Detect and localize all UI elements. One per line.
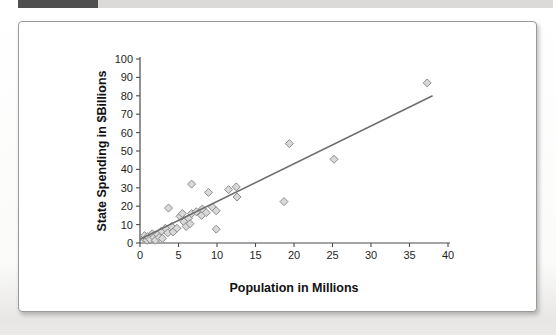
data-point [233,193,241,201]
y-tick-label: 20 [121,200,133,212]
y-tick-label: 100 [115,53,133,65]
y-tick-label: 10 [121,219,133,231]
chart-panel: 05101520253035400102030405060708090100Po… [18,21,537,312]
y-tick-label: 30 [121,182,133,194]
x-tick-label: 5 [175,249,181,261]
trend-line [140,96,433,240]
y-axis-title: State Spending in $Billions [95,70,109,231]
x-tick-label: 20 [288,249,300,261]
data-point [205,188,213,196]
data-point [280,198,288,206]
x-tick-label: 0 [137,249,143,261]
x-tick-label: 35 [403,249,415,261]
data-point [225,186,233,194]
y-tick-label: 40 [121,163,133,175]
y-tick-label: 90 [121,71,133,83]
data-point [423,79,431,87]
y-tick-label: 50 [121,145,133,157]
page: 05101520253035400102030405060708090100Po… [0,0,556,335]
x-tick-label: 10 [211,249,223,261]
x-tick-label: 25 [326,249,338,261]
x-axis-title: Population in Millions [229,281,358,295]
y-tick-label: 0 [127,237,133,249]
x-tick-label: 30 [365,249,377,261]
header-strip [0,0,556,8]
data-point [285,140,293,148]
x-tick-label: 40 [442,249,454,261]
data-point [212,225,220,233]
scatter-chart: 05101520253035400102030405060708090100Po… [19,22,536,311]
y-tick-label: 80 [121,90,133,102]
header-accent-bar [18,0,98,8]
x-tick-label: 15 [249,249,261,261]
y-tick-label: 60 [121,127,133,139]
data-point [188,180,196,188]
y-tick-label: 70 [121,108,133,120]
data-point [330,155,338,163]
header-rule-bar [98,0,553,8]
data-point [232,183,240,191]
data-point [164,204,172,212]
